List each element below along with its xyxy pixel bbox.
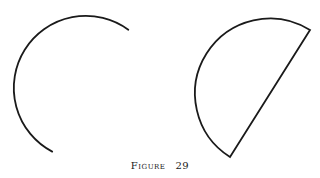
figure-caption: Figure29: [0, 160, 320, 171]
caption-number: 29: [175, 160, 189, 171]
circular-segment: [195, 18, 310, 157]
caption-label: Figure: [131, 160, 166, 171]
open-circular-arc: [14, 16, 128, 152]
figure-diagram: [0, 0, 320, 178]
